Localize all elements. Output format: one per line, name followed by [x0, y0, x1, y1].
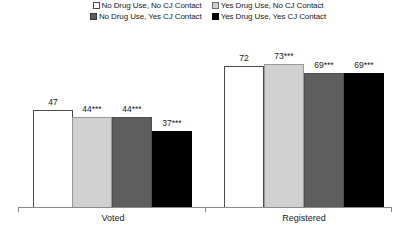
plot-area: 47 44*** 44*** 37*** 72 73*** 69*** 69**…: [0, 0, 416, 237]
bar-registered-yes-drug-no-cj[interactable]: [264, 64, 304, 208]
bar-registered-no-drug-no-cj[interactable]: [224, 66, 264, 208]
x-axis-tick-start: [18, 208, 19, 212]
bar-value-label: 44***: [112, 104, 152, 114]
bar-chart: No Drug Use, No CJ Contact Yes Drug Use,…: [0, 0, 416, 237]
bar-voted-yes-drug-no-cj[interactable]: [72, 117, 112, 208]
bar-voted-yes-drug-yes-cj[interactable]: [152, 131, 192, 208]
x-axis-label-registered: Registered: [264, 213, 344, 224]
x-axis-tick-mid: [205, 208, 206, 212]
bar-value-label: 37***: [152, 118, 192, 128]
bar-registered-no-drug-yes-cj[interactable]: [304, 73, 344, 208]
x-axis-label-voted: Voted: [73, 213, 153, 224]
bar-voted-no-drug-no-cj[interactable]: [33, 110, 73, 208]
x-axis-tick-end: [391, 208, 392, 212]
bar-registered-yes-drug-yes-cj[interactable]: [344, 73, 384, 208]
bar-value-label: 69***: [344, 60, 384, 70]
bar-value-label: 69***: [304, 60, 344, 70]
bar-value-label: 47: [33, 97, 73, 107]
bar-voted-no-drug-yes-cj[interactable]: [112, 117, 152, 208]
bar-value-label: 72: [224, 53, 264, 63]
bar-value-label: 73***: [264, 51, 304, 61]
bar-value-label: 44***: [72, 104, 112, 114]
